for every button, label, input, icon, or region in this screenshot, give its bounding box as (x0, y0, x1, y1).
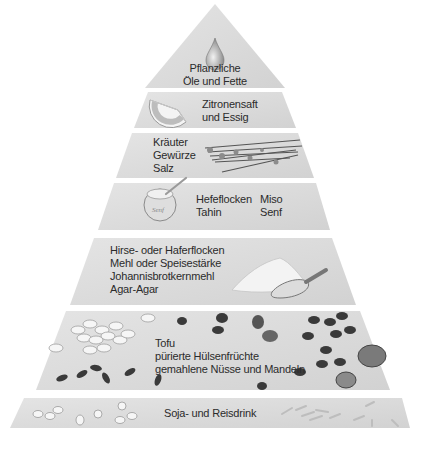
label-lemon: Zitronensaft und Essig (202, 98, 258, 124)
label-spreads-col1: Hefeflocken Tahin (196, 193, 252, 219)
food-pyramid: Senf (0, 0, 425, 450)
label-drinks: Soja- und Reisdrink (164, 407, 256, 420)
label-herbs: Kräuter Gewürze Salz (153, 136, 196, 175)
label-spreads-col2: Miso Senf (260, 193, 282, 219)
label-oils: Pflanzliche Öle und Fette (180, 62, 250, 88)
label-starches: Hirse- oder Haferflocken Mehl oder Speis… (110, 244, 224, 296)
svg-text:Senf: Senf (152, 206, 165, 214)
label-proteins: Tofu pürierte Hülsenfrüchte gemahlene Nü… (155, 337, 305, 376)
